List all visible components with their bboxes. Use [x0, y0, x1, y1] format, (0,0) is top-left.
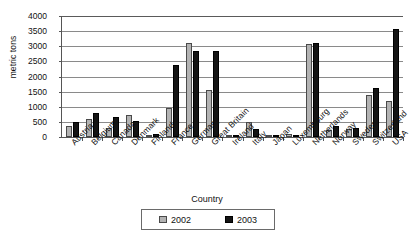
bar-group [286, 16, 299, 137]
bar-chart: metric tons 4000350030002500200015001000… [0, 0, 414, 237]
bar-group [166, 16, 179, 137]
y-tick-label-4000: 4000 [3, 12, 47, 20]
chart-legend: 2002 2003 [141, 209, 275, 230]
y-tick-mark-0 [59, 137, 62, 138]
bar-group [346, 16, 359, 137]
y-tick-label-2000: 2000 [3, 73, 47, 81]
y-tick-label-500: 500 [3, 118, 47, 126]
x-axis-title: Country [0, 194, 414, 204]
legend-item-2002: 2002 [159, 215, 191, 225]
legend-label-2002: 2002 [171, 215, 191, 225]
bar-group [186, 16, 199, 137]
legend-swatch-2002-icon [159, 216, 167, 223]
y-tick-label-3500: 3500 [3, 27, 47, 35]
y-tick-label-1500: 1500 [3, 88, 47, 96]
y-tick-label-1000: 1000 [3, 103, 47, 111]
y-tick-label-0: 0 [3, 133, 47, 141]
bar-group [126, 16, 139, 137]
bar-2002 [66, 126, 72, 137]
bar-2003 [193, 51, 199, 137]
y-tick-label-2500: 2500 [3, 57, 47, 65]
y-tick-label-3000: 3000 [3, 42, 47, 50]
legend-label-2003: 2003 [237, 215, 257, 225]
legend-item-2003: 2003 [225, 215, 257, 225]
bar-group [86, 16, 99, 137]
bar-group [246, 16, 259, 137]
bar-group [266, 16, 279, 137]
bar-group [66, 16, 79, 137]
legend-swatch-2003-icon [225, 216, 233, 223]
